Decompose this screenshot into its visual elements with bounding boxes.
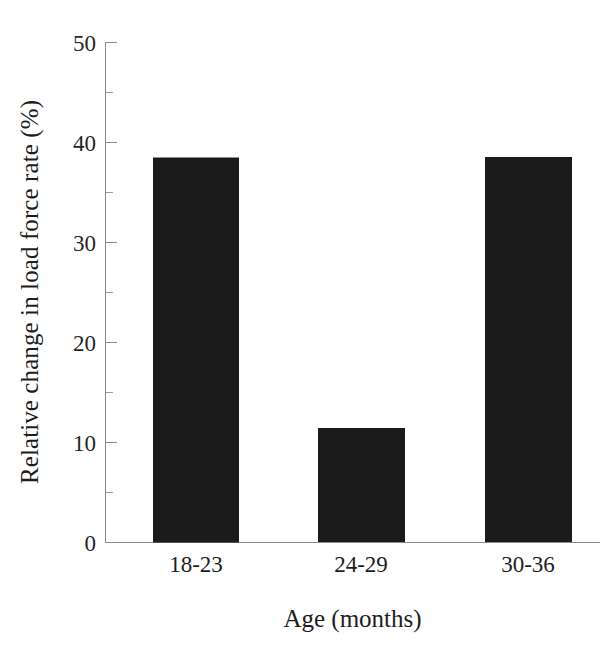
y-axis-tick-labels: 50 40 30 20 10 0 <box>73 31 96 556</box>
y-axis-major-ticks <box>106 43 118 443</box>
x-axis-title: Age (months) <box>105 605 600 633</box>
bar-30-36[interactable] <box>485 157 572 542</box>
bar-18-23[interactable] <box>153 158 239 543</box>
x-tick-label-30-36: 30-36 <box>501 552 555 577</box>
y-tick-label-40: 40 <box>73 131 96 156</box>
y-tick-label-10: 10 <box>73 431 96 456</box>
bar-chart-figure: Relative change in load force rate (%) 5… <box>0 0 616 659</box>
y-tick-label-30: 30 <box>73 231 96 256</box>
bar-group <box>153 157 572 543</box>
bar-24-29[interactable] <box>318 428 405 542</box>
x-axis-tick-labels: 18-23 24-29 30-36 <box>169 552 555 577</box>
x-tick-label-24-29: 24-29 <box>334 552 388 577</box>
y-tick-label-0: 0 <box>85 531 97 556</box>
y-axis-minor-ticks <box>106 93 114 493</box>
x-tick-label-18-23: 18-23 <box>169 552 223 577</box>
y-tick-label-20: 20 <box>73 331 96 356</box>
plot-area: 50 40 30 20 10 0 18-23 24-29 30-36 <box>0 0 616 659</box>
y-tick-label-50: 50 <box>73 31 96 56</box>
